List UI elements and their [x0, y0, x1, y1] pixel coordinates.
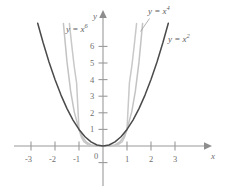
y-tick-label-6: 6 [90, 42, 94, 51]
curve-label-x2-base: y = x [168, 34, 187, 44]
curve-label-x4-base: y = x [148, 6, 167, 16]
x-tick-label-3: 3 [173, 155, 177, 164]
curve-label-x6-base: y = x [66, 24, 85, 34]
x-tick-label--3: -3 [25, 155, 32, 164]
x-tick-label--2: -2 [49, 155, 56, 164]
y-tick-label-3: 3 [90, 92, 94, 101]
curve-label-x2-exponent: 2 [187, 32, 190, 39]
graph-figure: -3 -2 -1 0 1 2 3 1 2 3 4 5 6 x y y = x6 … [0, 0, 226, 191]
curve-label-x6-exponent: 6 [85, 22, 88, 29]
curve-label-x4: y = x4 [148, 7, 170, 16]
x-tick-label-2: 2 [149, 155, 153, 164]
x-tick-label-0: 0 [94, 152, 98, 161]
y-tick-label-4: 4 [90, 76, 94, 85]
plot-canvas [0, 0, 226, 191]
curve-label-x6: y = x6 [66, 25, 88, 34]
y-tick-label-1: 1 [90, 125, 94, 134]
y-axis-label: y [93, 12, 97, 21]
x-axis-label: x [211, 152, 215, 161]
x-tick-label--1: -1 [73, 155, 80, 164]
y-tick-label-5: 5 [90, 59, 94, 68]
y-axis-arrowhead [99, 10, 107, 18]
y-tick-label-2: 2 [90, 109, 94, 118]
x-axis-arrowhead [204, 142, 212, 150]
curve-label-x2: y = x2 [168, 35, 190, 44]
curve-label-x4-exponent: 4 [167, 4, 170, 11]
x-tick-label-1: 1 [125, 155, 129, 164]
